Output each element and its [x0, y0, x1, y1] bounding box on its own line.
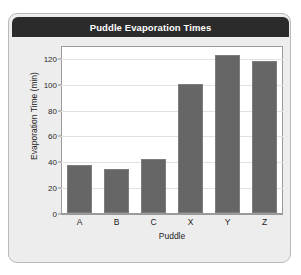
x-tick-label: B: [114, 217, 120, 227]
y-tick-label: 0: [27, 210, 57, 219]
x-tick-label: A: [77, 217, 83, 227]
chart-area: Evaporation Time (min) 020406080100120 A…: [9, 37, 290, 263]
bar-z: [252, 61, 276, 213]
bar-b: [104, 169, 128, 213]
y-tick-label: 100: [27, 80, 57, 89]
x-axis-label: Puddle: [61, 231, 283, 241]
bar-x: [178, 84, 202, 213]
y-tick-label: 20: [27, 184, 57, 193]
x-tick-label: Z: [262, 217, 267, 227]
y-tick-label: 60: [27, 132, 57, 141]
x-tick-label: C: [150, 217, 156, 227]
bar-a: [67, 165, 91, 213]
bar-c: [141, 159, 165, 213]
bars-layer: [61, 46, 283, 214]
x-tick-label: X: [188, 217, 194, 227]
chart-card: Puddle Evaporation Times Evaporation Tim…: [8, 13, 291, 263]
y-tick-label: 80: [27, 106, 57, 115]
y-tick-label: 120: [27, 54, 57, 63]
bar-y: [215, 55, 239, 213]
x-tick-label: Y: [225, 217, 231, 227]
chart-title: Puddle Evaporation Times: [90, 22, 212, 33]
y-tick-label: 40: [27, 158, 57, 167]
chart-title-bar: Puddle Evaporation Times: [12, 17, 289, 37]
gridline: [61, 214, 283, 215]
